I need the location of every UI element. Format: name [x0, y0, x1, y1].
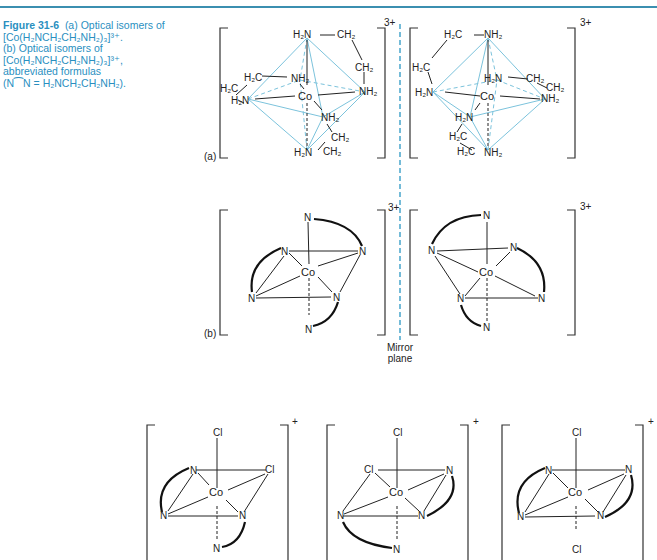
atom-label: N	[359, 246, 366, 257]
panel-c-isomer-2: Cl Cl N N N N Co +	[327, 416, 479, 560]
atom-label: N	[483, 322, 490, 333]
atom-label: NH₂	[359, 86, 377, 97]
atom-label: H₂N	[484, 73, 502, 84]
panel-a-left-isomer: H₂N CH₂ CH₂ NH₂ H₂C H₂C H₂N NH₂ NH₂ CH₂ …	[204, 17, 396, 162]
charge-label: 3+	[580, 201, 592, 212]
atom-label: N	[281, 246, 288, 257]
atom-label: CH₂	[526, 73, 544, 84]
atom-label: NH₂	[484, 29, 502, 40]
chelate-arc	[252, 248, 281, 292]
atom-label: Cl	[364, 464, 373, 475]
atom-label: N	[510, 242, 517, 253]
atom-label: H₂C	[220, 83, 238, 94]
atom-label: CH₂	[337, 29, 355, 40]
atom-label: NH₂	[541, 93, 559, 104]
atom-label: H₂C	[412, 62, 430, 73]
atom-label: N	[333, 292, 340, 303]
atom-label: Cl	[265, 464, 274, 475]
chelate-arc	[461, 305, 481, 326]
atom-label: N	[337, 510, 344, 521]
isomer-diagram: .bk{stroke:#222;stroke-width:1;fill:none…	[0, 0, 657, 560]
panel-b-left-isomer: N N N N N N Co 3+ (b)	[204, 202, 400, 339]
bracket-left	[220, 210, 228, 335]
charge-label: +	[473, 416, 479, 427]
metal-label: Co	[389, 486, 403, 498]
atom-label: N	[457, 293, 464, 304]
panel-a-label: (a)	[204, 151, 216, 162]
atom-label: N	[393, 544, 400, 555]
atom-label: H₂N	[455, 112, 473, 123]
atom-label: N	[248, 293, 255, 304]
atom-label: N	[597, 510, 604, 521]
bracket-right	[377, 28, 385, 158]
atom-label: NH₂	[484, 147, 502, 158]
atom-label: CH₂	[546, 82, 564, 93]
atom-label: H₂C	[244, 72, 262, 83]
bracket-right	[377, 210, 385, 335]
atom-label: N	[239, 510, 246, 521]
atom-label: N	[538, 293, 545, 304]
atom-label: N	[418, 510, 425, 521]
atom-label: Cl	[572, 544, 581, 555]
panel-c-isomer-1: Cl N Cl N N N Co +	[147, 416, 298, 560]
mirror-label-1: Mirror	[387, 342, 414, 353]
charge-label: 3+	[580, 17, 592, 28]
atom-label: N	[446, 465, 453, 476]
bracket-left	[410, 210, 418, 335]
atom-label: CH₂	[331, 132, 349, 143]
charge-label: 3+	[384, 17, 396, 28]
atom-label: H₂C	[444, 29, 462, 40]
atom-label: H₂N	[293, 29, 311, 40]
metal-label: Co	[301, 266, 315, 278]
panel-c-isomer-3: Cl N N N N Cl Co +	[502, 416, 654, 560]
atom-label: N	[625, 464, 632, 475]
atom-label: N	[305, 324, 312, 335]
atom-label: H₂C	[457, 146, 475, 157]
atom-label: N	[213, 543, 220, 554]
panel-a-right-isomer: H₂C NH₂ H₂C H₂N H₂N CH₂ CH₂ NH₂ H₂N H₂C …	[410, 17, 592, 158]
atom-label: Cl	[393, 427, 402, 438]
atom-label: N	[517, 511, 524, 522]
atom-label: H₂N	[294, 147, 312, 158]
atom-label: CH₂	[355, 62, 373, 73]
chelate-arc	[517, 248, 544, 292]
bracket-right	[567, 28, 575, 158]
panel-b-right-isomer: N N N N N N Co 3+	[410, 201, 592, 335]
metal-label: Co	[480, 90, 494, 102]
atom-label: Cl	[213, 427, 222, 438]
atom-label: H₂N	[231, 95, 249, 106]
atom-label: N	[428, 245, 435, 256]
atom-label: N	[483, 210, 490, 221]
atom-label: Cl	[572, 427, 581, 438]
charge-label: +	[292, 416, 298, 427]
metal-label: Co	[298, 90, 312, 102]
metal-label: Co	[479, 266, 493, 278]
chelate-arc	[314, 219, 362, 246]
charge-label: 3+	[388, 202, 400, 213]
atom-label: H₂N	[415, 87, 433, 98]
chelate-arc	[313, 302, 338, 326]
metal-label: Co	[568, 486, 582, 498]
atom-label: H₂C	[449, 131, 467, 142]
charge-label: +	[648, 416, 654, 427]
atom-label: NH₂	[321, 112, 339, 123]
atom-label: N	[545, 465, 552, 476]
atom-label: N	[190, 465, 197, 476]
panel-b-label: (b)	[204, 328, 216, 339]
atom-label: N	[304, 212, 311, 223]
atom-label: NH₂	[291, 73, 309, 84]
metal-label: Co	[209, 486, 223, 498]
atom-label: N	[160, 510, 167, 521]
bracket-right	[567, 210, 575, 335]
atom-label: CH₂	[323, 146, 341, 157]
mirror-label-2: plane	[388, 353, 413, 364]
chelate-arc	[432, 215, 481, 244]
